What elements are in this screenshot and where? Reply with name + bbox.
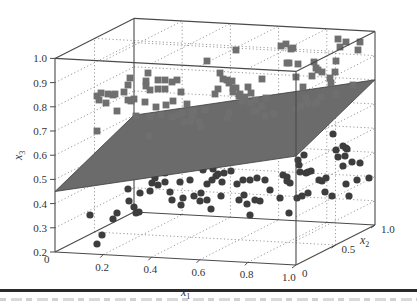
circle-marker [365, 174, 372, 181]
circle-marker [240, 191, 247, 198]
y-tick-label: 0.5 [342, 243, 356, 255]
grid-line [95, 232, 336, 245]
circle-marker [251, 196, 258, 203]
square-marker [229, 78, 236, 85]
square-marker [263, 95, 270, 102]
square-marker [333, 58, 340, 65]
circle-marker [132, 209, 139, 216]
z-tick-label: 0.7 [33, 125, 47, 137]
square-marker [155, 77, 162, 84]
grid-line [55, 188, 134, 228]
square-marker [125, 82, 132, 89]
circle-marker [315, 176, 322, 183]
square-marker [147, 114, 154, 121]
circle-marker [243, 200, 250, 207]
circle-marker [109, 215, 116, 222]
square-marker [162, 77, 169, 84]
square-marker [233, 85, 240, 92]
square-marker [146, 133, 153, 140]
circle-marker [146, 187, 153, 194]
circle-marker [353, 176, 360, 183]
x3-axis-title: x3 [11, 151, 27, 161]
circle-marker [322, 174, 329, 181]
svg-text:x3: x3 [11, 151, 27, 161]
z-tick-label: 0.3 [33, 222, 47, 234]
square-marker [295, 61, 302, 68]
circle-marker [168, 196, 175, 203]
square-marker [335, 36, 342, 43]
circle-marker [246, 176, 253, 183]
x-tick-label: 0.4 [143, 263, 157, 275]
z-tick-label: 0.6 [33, 149, 47, 161]
circle-marker [161, 178, 168, 185]
circle-marker [321, 188, 328, 195]
circle-marker [342, 180, 349, 187]
circle-marker [196, 197, 203, 204]
square-marker [153, 104, 160, 111]
circle-marker [177, 201, 184, 208]
square-marker [290, 45, 297, 52]
y-tick-label: 1.0 [381, 223, 395, 235]
grid-line [95, 38, 336, 51]
circle-marker [179, 194, 186, 201]
circle-marker [239, 176, 246, 183]
circle-marker [285, 209, 292, 216]
circle-marker [261, 176, 268, 183]
square-marker [305, 100, 312, 107]
square-marker [169, 114, 176, 121]
grid-line [103, 21, 182, 61]
square-marker [271, 111, 278, 118]
square-marker [248, 90, 255, 97]
square-marker [131, 96, 138, 103]
x-tick-label: 1.0 [282, 271, 296, 283]
square-marker [147, 87, 154, 94]
square-marker [94, 128, 101, 135]
square-marker [142, 99, 149, 106]
square-marker [215, 86, 222, 93]
square-marker [155, 86, 162, 93]
circle-marker [266, 186, 273, 193]
circle-marker [332, 146, 339, 153]
circle-marker [186, 176, 193, 183]
y-tick-label: 0 [302, 267, 308, 279]
3d-scatter-chart: 1.00.90.80.70.60.50.40.30.200.20.40.60.8… [0, 0, 417, 305]
square-marker [319, 69, 326, 76]
square-marker [145, 70, 152, 77]
circle-marker [176, 178, 183, 185]
grid-line [151, 217, 230, 257]
square-marker [127, 75, 134, 82]
circle-marker [302, 169, 309, 176]
x2-axis-title: x2 [359, 233, 369, 249]
square-marker [121, 89, 128, 96]
z-tick-label: 1.0 [33, 52, 47, 64]
circle-marker [356, 159, 363, 166]
x-tick-label: 0.8 [240, 268, 254, 280]
circle-marker [214, 170, 221, 177]
circle-marker [93, 240, 100, 247]
circle-marker [218, 178, 225, 185]
x-tick-label: 0 [44, 253, 50, 265]
square-marker [143, 78, 150, 85]
circle-marker [298, 192, 305, 199]
square-marker [259, 103, 266, 110]
circle-marker [343, 145, 350, 152]
cropped-caption-text [0, 297, 417, 305]
grid-line [151, 24, 230, 64]
box-edge [134, 18, 375, 31]
circle-marker [233, 180, 240, 187]
circle-marker [276, 194, 283, 201]
square-marker [198, 124, 205, 131]
circle-marker [124, 185, 131, 192]
circle-marker [203, 196, 210, 203]
z-tick-label: 0.5 [33, 173, 47, 185]
square-marker [204, 58, 211, 65]
circle-marker [136, 189, 143, 196]
square-marker [112, 91, 119, 98]
circle-marker [286, 179, 293, 186]
square-marker [259, 76, 266, 83]
square-marker [332, 69, 339, 76]
circle-marker [334, 153, 341, 160]
circle-marker [217, 192, 224, 199]
circle-marker [154, 181, 161, 188]
circle-marker [246, 211, 253, 218]
